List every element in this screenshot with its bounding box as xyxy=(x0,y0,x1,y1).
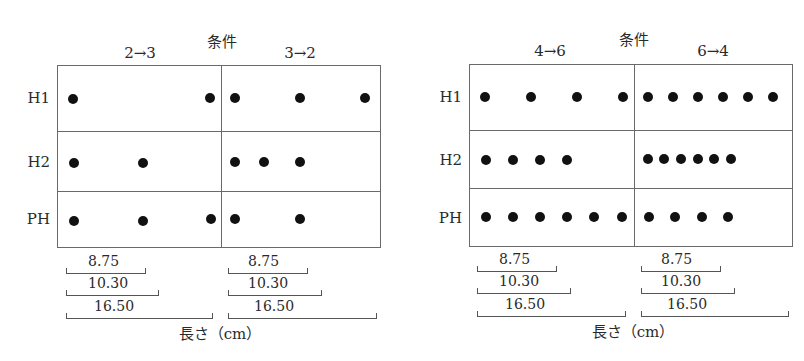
dot xyxy=(718,92,728,102)
dot xyxy=(643,154,653,164)
dot xyxy=(508,155,518,165)
dot xyxy=(617,212,627,222)
dot xyxy=(670,212,680,222)
scale-bracket xyxy=(641,311,789,317)
column-label-4to6: 4→6 xyxy=(510,42,590,60)
dot xyxy=(768,92,778,102)
scale-label: 10.30 xyxy=(661,273,701,289)
dot xyxy=(481,212,491,222)
dot xyxy=(743,92,753,102)
scale-label: 10.30 xyxy=(499,273,539,289)
right-panel: 条件 4→6 6→4 H1 H2 PH 8.75 10.30 xyxy=(0,0,804,361)
dot xyxy=(589,212,599,222)
grid-row-divider xyxy=(469,130,792,131)
row-label-h1: H1 xyxy=(422,88,462,106)
scale-label: 16.50 xyxy=(667,296,707,312)
grid-left-border xyxy=(469,64,470,246)
dot xyxy=(659,154,669,164)
column-label-6to4: 6→4 xyxy=(673,42,753,60)
dot xyxy=(726,154,736,164)
dot xyxy=(508,212,518,222)
row-label-h2: H2 xyxy=(422,151,462,169)
scale-label: 8.75 xyxy=(661,251,692,267)
grid-right-border xyxy=(792,64,793,246)
dot xyxy=(693,92,703,102)
dot xyxy=(668,92,678,102)
dot xyxy=(481,155,491,165)
grid-bottom-border xyxy=(469,246,793,247)
scale-label: 16.50 xyxy=(505,296,545,312)
dot xyxy=(562,212,572,222)
dot xyxy=(709,154,719,164)
dot xyxy=(643,92,653,102)
condition-title: 条件 xyxy=(604,28,664,49)
dot xyxy=(676,154,686,164)
dot xyxy=(723,212,733,222)
grid-column-divider xyxy=(634,64,635,246)
axis-label-length: 長さ（cm） xyxy=(592,320,675,341)
dot xyxy=(618,92,628,102)
dot xyxy=(480,92,490,102)
grid-top-border xyxy=(469,64,792,65)
dot xyxy=(572,92,582,102)
scale-label: 8.75 xyxy=(499,251,530,267)
dot xyxy=(535,212,545,222)
dot xyxy=(535,155,545,165)
scale-bracket xyxy=(477,311,626,317)
dot xyxy=(697,212,707,222)
dot xyxy=(526,92,536,102)
row-label-ph: PH xyxy=(422,209,462,227)
dot xyxy=(562,155,572,165)
dot xyxy=(644,212,654,222)
dot xyxy=(693,154,703,164)
grid-row-divider xyxy=(469,188,792,189)
